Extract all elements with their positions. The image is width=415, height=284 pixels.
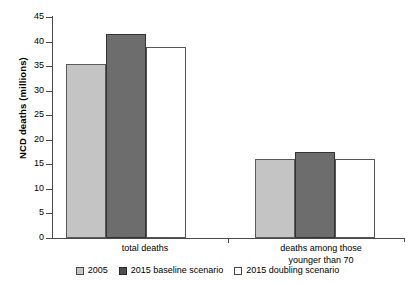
bar bbox=[295, 152, 335, 238]
y-axis-tick-label-text: 0 bbox=[18, 233, 44, 242]
y-axis-tick-label-text: 25 bbox=[18, 110, 44, 119]
category-label-line: total deaths bbox=[62, 243, 228, 255]
chart-legend: 20052015 baseline scenario2015 doubling … bbox=[0, 265, 415, 276]
y-axis-tick-label: 15 bbox=[14, 159, 44, 169]
y-axis-tick-label-text: 30 bbox=[18, 86, 44, 95]
bar bbox=[255, 159, 295, 238]
y-axis-tick-label: 40 bbox=[14, 37, 44, 47]
y-axis-tick bbox=[46, 238, 52, 239]
y-axis-tick-label-text: 45 bbox=[18, 12, 44, 21]
y-axis-tick-label: 35 bbox=[14, 61, 44, 71]
y-axis-tick-label: 5 bbox=[14, 208, 44, 218]
y-axis-tick-label: 45 bbox=[14, 12, 44, 22]
bar bbox=[66, 64, 106, 238]
y-axis-tick-label: 0 bbox=[14, 233, 44, 243]
bar bbox=[106, 34, 146, 238]
light-gray-swatch bbox=[76, 267, 84, 275]
legend-item-label: 2015 doubling scenario bbox=[246, 265, 339, 276]
y-axis-tick-label-text: 15 bbox=[18, 159, 44, 168]
x-axis-category-label-under-70: deaths among those younger than 70 bbox=[238, 243, 404, 266]
y-axis-tick-label-text: 35 bbox=[18, 61, 44, 70]
x-axis-group-separator-tick bbox=[228, 238, 229, 243]
legend-item[interactable]: 2015 doubling scenario bbox=[234, 265, 339, 276]
legend-item[interactable]: 2005 bbox=[76, 265, 108, 276]
category-label-line: deaths among those bbox=[238, 243, 404, 255]
bar bbox=[146, 47, 186, 238]
x-axis-end-tick bbox=[404, 238, 405, 242]
y-axis-tick-label: 30 bbox=[14, 86, 44, 96]
bars-layer bbox=[52, 17, 405, 238]
legend-item[interactable]: 2015 baseline scenario bbox=[119, 265, 224, 276]
white-swatch bbox=[234, 267, 242, 275]
x-axis-category-label-total-deaths: total deaths bbox=[62, 243, 228, 255]
y-axis-tick-label: 20 bbox=[14, 135, 44, 145]
y-axis-tick-label-text: 5 bbox=[18, 208, 44, 217]
y-axis-tick-label: 25 bbox=[14, 110, 44, 120]
y-axis-tick-label-text: 20 bbox=[18, 135, 44, 144]
y-axis-tick-label-text: 10 bbox=[18, 184, 44, 193]
y-axis-tick-label: 10 bbox=[14, 184, 44, 194]
bar-chart: NCD deaths (millions) 051015202530354045… bbox=[0, 0, 415, 284]
y-axis-tick-label-text: 40 bbox=[18, 37, 44, 46]
dark-gray-swatch bbox=[119, 267, 127, 275]
bar bbox=[335, 159, 375, 238]
legend-item-label: 2005 bbox=[88, 265, 108, 276]
legend-item-label: 2015 baseline scenario bbox=[131, 265, 224, 276]
